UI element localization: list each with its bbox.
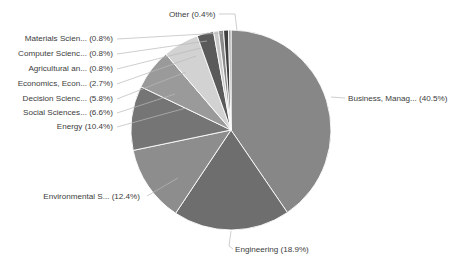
pie-chart-canvas: Business, Manag... (40.5%)Engineering (1… [0, 0, 474, 265]
leader-line [229, 231, 233, 249]
slice-label: Computer Scienc... (0.8%) [18, 49, 113, 58]
slice-label: Agricultural an... (0.8%) [28, 64, 113, 73]
slice-label: Business, Manag... (40.5%) [348, 94, 448, 103]
slice-label: Decision Scienc... (5.8%) [23, 94, 114, 103]
pie-sectors-group [131, 30, 331, 230]
slice-label: Other (0.4%) [169, 10, 216, 19]
slice-label: Social Sciences... (6.6%) [23, 108, 113, 117]
leader-line [331, 97, 345, 98]
slice-label: Materials Scien... (0.8%) [25, 34, 113, 43]
leader-line [219, 14, 237, 31]
pie-chart-figure: Business, Manag... (40.5%)Engineering (1… [0, 0, 474, 265]
slice-label: Energy (10.4%) [57, 122, 114, 131]
slice-label: Economics, Econ... (2.7%) [18, 79, 114, 88]
slice-label: Environmental S... (12.4%) [43, 192, 140, 201]
slice-label: Engineering (18.9%) [235, 245, 309, 254]
